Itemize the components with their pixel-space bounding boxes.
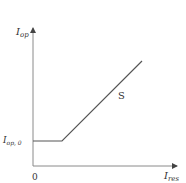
threshold-label: Iop, 0 (2, 135, 22, 147)
characteristic-curve (33, 61, 142, 141)
x-axis-label: Ires (163, 170, 179, 183)
slope-label: S (118, 90, 125, 101)
origin-label: 0 (32, 172, 38, 182)
restraint-characteristic-diagram: Iop Iop, 0 0 Ires S (0, 0, 186, 183)
y-axis-label: Iop (15, 26, 29, 39)
